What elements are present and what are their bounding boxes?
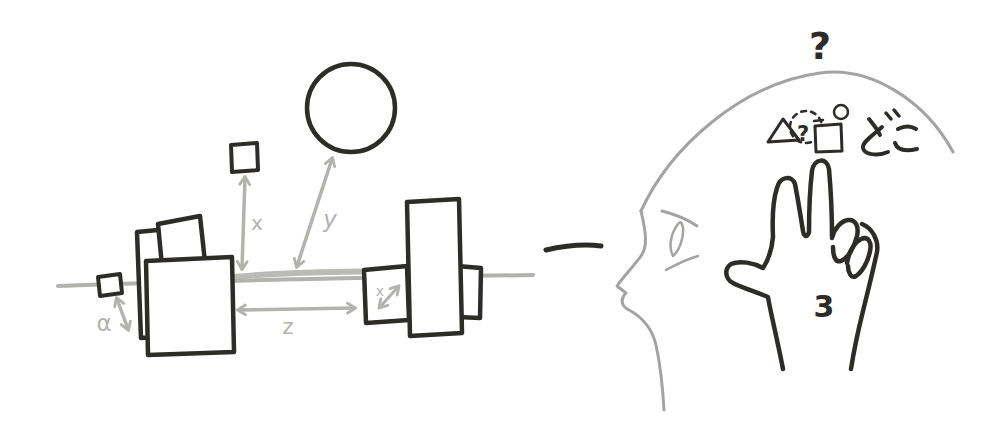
sketch-canvas: α x y z x ? xyxy=(0,0,1007,441)
tall-rectangle xyxy=(407,199,462,336)
z-label: z xyxy=(282,315,293,339)
z-arrow xyxy=(239,308,354,310)
left-small-rectangle xyxy=(364,266,409,323)
square-icon xyxy=(815,124,842,152)
triangle-icon xyxy=(768,119,799,142)
eye xyxy=(662,211,698,270)
memory-shapes: ? xyxy=(768,105,848,152)
eye-shape xyxy=(671,222,684,256)
head-group: ? ? 3 xyxy=(617,24,953,410)
building-cluster-left xyxy=(137,216,234,355)
top-question-mark: ? xyxy=(809,24,831,68)
inner-question-mark: ? xyxy=(797,122,809,146)
scene-left: α x y z x xyxy=(58,64,533,355)
alpha-arrow xyxy=(117,299,128,329)
finger-count-label: 3 xyxy=(814,289,835,324)
x-label: x xyxy=(251,211,263,235)
cheek-line xyxy=(666,256,698,270)
ball xyxy=(307,64,395,152)
front-square xyxy=(146,257,234,355)
x-inner-label: x xyxy=(376,283,384,299)
alpha-label: α xyxy=(96,310,111,336)
structure-right xyxy=(364,199,481,336)
transition-arrow xyxy=(546,245,601,250)
square-top-tick xyxy=(814,120,823,121)
japanese-text-doko xyxy=(863,110,917,155)
x-arrow xyxy=(242,178,245,268)
small-circle-icon xyxy=(834,105,848,119)
floating-square xyxy=(231,143,258,172)
small-square-left xyxy=(98,274,122,296)
pinky-finger-fold xyxy=(847,238,871,276)
face-profile xyxy=(617,211,664,410)
sketch-figure: α x y z x ? xyxy=(0,0,1007,441)
hand: 3 xyxy=(726,161,877,369)
hand-outline xyxy=(726,161,832,369)
ring-finger-fold xyxy=(832,220,858,261)
y-label: y xyxy=(322,206,337,232)
